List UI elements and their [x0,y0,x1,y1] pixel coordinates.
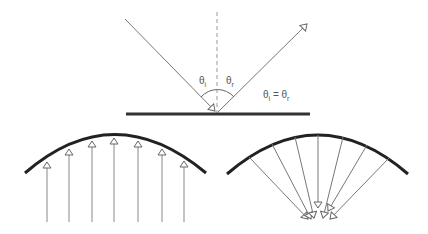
theta-reflected-label: θr [226,75,235,88]
focused-ray [249,157,308,219]
curved-mirror-left [25,135,206,174]
focused-ray [330,158,389,219]
focused-rays-panel [227,135,408,219]
reflection-diagram: θi θr θi = θr [0,0,428,234]
reflection-equation: θi = θr [263,89,290,102]
parallel-ray-group [47,138,184,222]
theta-incident-label: θi [199,75,207,88]
law-of-reflection-panel: θi θr θi = θr [125,12,310,114]
parallel-rays-panel [25,135,206,223]
incident-ray [125,19,215,111]
focused-ray [323,137,343,218]
